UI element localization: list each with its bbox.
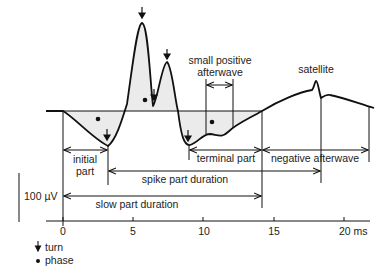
label-negative-afterwave: negative afterwave <box>271 152 359 164</box>
dot-icon <box>143 98 148 103</box>
down-arrow-icon <box>164 49 170 59</box>
label-initial: initial <box>73 153 97 165</box>
label-spike-part-duration: spike part duration <box>142 173 229 185</box>
tick-label-15: 15 <box>268 225 280 237</box>
label-terminal-part: terminal part <box>197 152 255 164</box>
legend-turn-label: turn <box>45 241 63 253</box>
legend: turn phase <box>36 241 74 266</box>
down-arrow-icon <box>36 241 41 251</box>
tick-label-20: 20 ms <box>339 225 368 237</box>
label-part: part <box>76 165 94 177</box>
legend-phase-label: phase <box>45 254 74 266</box>
dot-icon <box>210 120 215 125</box>
tick-label-10: 10 <box>198 225 210 237</box>
dot-icon <box>36 259 40 263</box>
label-slow-part-duration: slow part duration <box>96 198 179 210</box>
tick-label-0: 0 <box>60 225 66 237</box>
scale-bar-label: 100 µV <box>24 190 58 202</box>
label-afterwave: afterwave <box>197 66 243 78</box>
down-arrow-icon <box>139 7 145 18</box>
dot-icon <box>96 117 101 122</box>
tick-label-5: 5 <box>130 225 136 237</box>
muap-diagram: small positive afterwave satellite initi… <box>0 0 390 278</box>
time-axis <box>46 217 370 221</box>
label-small-positive: small positive <box>188 54 251 66</box>
label-satellite: satellite <box>298 63 334 75</box>
